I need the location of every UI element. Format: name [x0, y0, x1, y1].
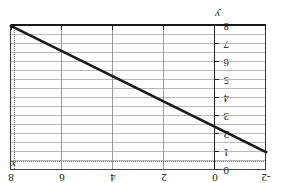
x-tick-label-0: 0	[212, 172, 218, 183]
series-line-segment	[11, 26, 266, 152]
y-axis-title: y	[215, 9, 220, 20]
x-tick-label-8: 8	[8, 172, 14, 183]
x-tick-label-4: 4	[110, 172, 116, 183]
data-series-line	[11, 26, 266, 170]
rotated-figure-wrapper: -2 0 2 4 6 8 x 0 1 2 3 4 5 6 7 8 y	[0, 0, 299, 183]
plot-area	[11, 26, 266, 170]
x-tick-label-2: 2	[161, 172, 167, 183]
x-tick-label-6: 6	[59, 172, 65, 183]
x-tick-label--2: -2	[261, 172, 270, 183]
line-chart-figure: -2 0 2 4 6 8 x 0 1 2 3 4 5 6 7 8 y	[0, 0, 299, 183]
